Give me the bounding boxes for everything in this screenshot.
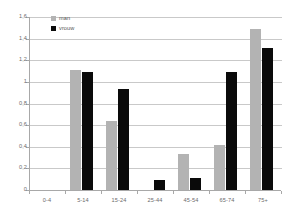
bar-vrouw-25-44[interactable] bbox=[154, 180, 165, 190]
bar-man-75+[interactable] bbox=[250, 29, 261, 190]
bar-vrouw-65-74[interactable] bbox=[226, 72, 237, 190]
legend-item-man[interactable]: man bbox=[51, 14, 74, 23]
legend-item-vrouw[interactable]: vrouw bbox=[51, 24, 74, 33]
y-axis-tick-label: 0,6 bbox=[3, 122, 27, 128]
bar-chart: 00,20,40,60,811,21,41,6 0-45-1415-2425-4… bbox=[0, 0, 295, 219]
legend-label-man: man bbox=[59, 16, 70, 22]
bar-vrouw-75+[interactable] bbox=[262, 48, 273, 190]
x-axis-tick-label: 25-44 bbox=[137, 198, 173, 204]
bar-vrouw-5-14[interactable] bbox=[82, 72, 93, 190]
x-tick-mark bbox=[173, 191, 174, 194]
y-axis-tick-label: 0 bbox=[3, 187, 27, 193]
x-tick-mark bbox=[137, 191, 138, 194]
legend-swatch-icon-vrouw bbox=[51, 26, 56, 31]
y-axis-tick-label: 1,4 bbox=[3, 36, 27, 42]
bar-vrouw-15-24[interactable] bbox=[118, 89, 129, 190]
x-axis-tick-label: 0-4 bbox=[29, 198, 65, 204]
bar-group bbox=[65, 17, 101, 190]
bar-group bbox=[245, 17, 281, 190]
bar-man-15-24[interactable] bbox=[106, 121, 117, 190]
x-axis-tick-label: 65-74 bbox=[209, 198, 245, 204]
bar-man-65-74[interactable] bbox=[214, 145, 225, 190]
y-axis-tick-label: 0,8 bbox=[3, 101, 27, 107]
x-axis-tick-label: 45-54 bbox=[173, 198, 209, 204]
x-tick-mark bbox=[65, 191, 66, 194]
x-tick-mark bbox=[209, 191, 210, 194]
bar-group bbox=[101, 17, 137, 190]
x-tick-mark bbox=[245, 191, 246, 194]
legend-swatch-icon-man bbox=[51, 16, 56, 21]
x-tick-mark bbox=[281, 191, 282, 194]
bar-vrouw-45-54[interactable] bbox=[190, 178, 201, 190]
x-tick-mark bbox=[101, 191, 102, 194]
x-axis-tick-label: 5-14 bbox=[65, 198, 101, 204]
y-axis-tick-label: 1,2 bbox=[3, 57, 27, 63]
x-tick-mark bbox=[29, 191, 30, 194]
bar-man-45-54[interactable] bbox=[178, 154, 189, 190]
bar-group bbox=[137, 17, 173, 190]
y-axis-tick-label: 1 bbox=[3, 79, 27, 85]
x-axis-tick-label: 75+ bbox=[245, 198, 281, 204]
bar-group bbox=[209, 17, 245, 190]
legend-label-vrouw: vrouw bbox=[59, 26, 74, 32]
y-axis-tick-label: 1,6 bbox=[3, 14, 27, 20]
bar-group bbox=[29, 17, 65, 190]
y-axis-tick-label: 0,4 bbox=[3, 144, 27, 150]
bar-man-5-14[interactable] bbox=[70, 70, 81, 190]
bar-group bbox=[173, 17, 209, 190]
chart-legend: man vrouw bbox=[51, 14, 74, 34]
bars-layer bbox=[29, 17, 281, 191]
y-axis-tick-label: 0,2 bbox=[3, 165, 27, 171]
x-axis-tick-label: 15-24 bbox=[101, 198, 137, 204]
